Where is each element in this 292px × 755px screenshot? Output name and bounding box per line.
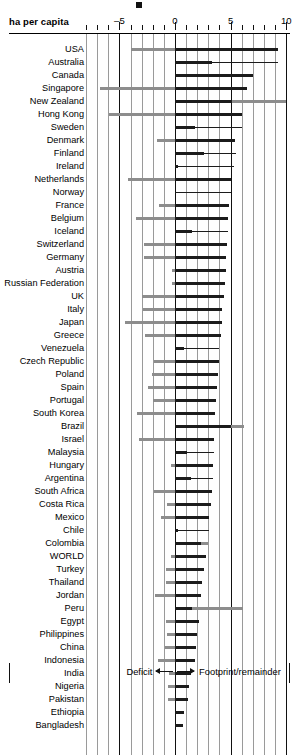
row-label: Peru [65,602,84,615]
chart-row: Bangladesh [0,719,290,732]
x-tickmark-minor [153,25,154,30]
row-label: Israel [62,433,84,446]
row-label: Hong Kong [38,108,84,121]
chart-row: Greece [0,329,290,342]
chart-row: WORLD [0,550,290,563]
bar-remainder [192,607,243,610]
legend-left-arrow [156,671,173,672]
row-label: WORLD [50,550,84,563]
top-axis-rule [9,33,290,34]
bar-footprint [175,529,178,532]
bar-footprint [175,711,184,714]
bar-footprint [175,724,183,727]
row-label: South Africa [34,485,84,498]
chart-row: Costa Rica [0,498,290,511]
row-label: Ireland [56,160,84,173]
chart-row: Colombia [0,537,290,550]
x-tickmark-minor [197,25,198,30]
bar-footprint [175,373,218,376]
bar-deficit [166,581,175,584]
x-tickmark-minor [219,25,220,30]
bar-footprint [175,477,191,480]
bar-footprint [175,139,235,142]
row-label: Australia [48,56,84,69]
legend-footprint-label: Footprint/remainder [199,666,281,677]
row-label: Venezuela [41,342,84,355]
bar-remainder [231,425,244,428]
bar-footprint [175,438,214,441]
bar-deficit [159,204,175,207]
x-tickmark-minor [108,25,109,30]
row-label: Ethiopia [51,706,84,719]
chart-row: Italy [0,303,290,316]
bar-footprint [175,581,202,584]
chart-row: Sweden [0,121,290,134]
bar-footprint [175,568,204,571]
chart-row: Pakistan [0,693,290,706]
bar-deficit [165,646,175,649]
x-tickmark-minor [208,25,209,30]
chart-row: Argentina [0,472,290,485]
bar-footprint [175,295,224,298]
bar-deficit [143,308,175,311]
chart-row: Philippines [0,628,290,641]
row-label: Jordan [56,589,84,602]
row-label: Czech Republic [20,355,84,368]
bar-footprint [175,555,206,558]
x-tickmark-minor [264,25,265,30]
x-tickmark-minor [275,25,276,30]
bar-deficit [167,503,175,506]
axis-title: ha per capita [9,16,69,27]
row-label: Greece [54,329,84,342]
row-label: Bangladesh [35,719,84,732]
bar-deficit [154,360,175,363]
chart-row: Venezuela [0,342,290,355]
x-tickmark-minor [97,25,98,30]
chart-row: Brazil [0,420,290,433]
bar-footprint [175,178,231,181]
bar-deficit [166,568,175,571]
chart-row: France [0,199,290,212]
page-corner-mark [136,2,142,8]
bar-footprint [175,347,184,350]
bar-footprint [175,503,211,506]
chart-row: Turkey [0,563,290,576]
bar-footprint [175,230,192,233]
bar-deficit [153,399,175,402]
chart-row: Norway [0,186,290,199]
bar-footprint [175,451,187,454]
bar-deficit [144,243,175,246]
row-label: Philippines [40,628,84,641]
row-label: China [60,641,84,654]
bar-deficit [167,633,175,636]
bar-deficit [142,295,175,298]
bar-tail [175,192,231,193]
chart-row: Australia [0,56,290,69]
bar-tail [175,166,234,167]
bar-footprint [175,269,226,272]
row-label: Switzerland [37,238,85,251]
x-tickmark-minor [253,25,254,30]
chart-legend: Deficit Footprint/remainder [0,663,290,685]
bar-footprint [175,113,242,116]
row-label: Argentina [45,472,84,485]
legend-left-bound [9,663,10,683]
bar-deficit [155,594,175,597]
legend-deficit-label: Deficit [126,666,152,677]
chart-row: Netherlands [0,173,290,186]
chart-row: Czech Republic [0,355,290,368]
x-tickmark-minor [164,25,165,30]
row-label: Iceland [54,225,84,238]
row-label: Thailand [49,576,84,589]
bar-footprint [175,659,195,662]
bar-footprint [175,685,189,688]
chart-row: Denmark [0,134,290,147]
row-label: Italy [67,303,84,316]
bar-footprint [175,100,232,103]
bar-footprint [175,490,212,493]
bar-footprint [175,61,212,64]
x-tickmark-5 [231,22,232,30]
row-label: UK [71,290,84,303]
row-label: Egypt [61,615,85,628]
chart-row: Singapore [0,82,290,95]
